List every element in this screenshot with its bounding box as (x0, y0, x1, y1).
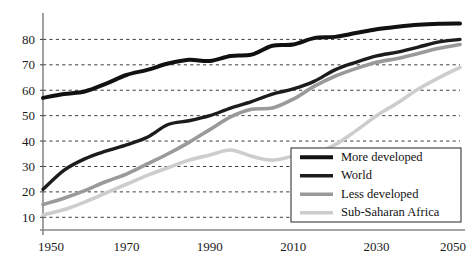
y-tick-label-50: 50 (22, 108, 35, 123)
x-tick-label-1950: 1950 (38, 239, 64, 254)
y-tick-label-10: 10 (22, 210, 35, 225)
legend-label-more-developed: More developed (341, 150, 423, 164)
y-tick-label-60: 60 (22, 83, 35, 98)
x-tick-label-2050: 2050 (440, 239, 466, 254)
x-tick-label-2010: 2010 (280, 239, 306, 254)
y-tick-label-80: 80 (22, 32, 35, 47)
x-tick-label-1970: 1970 (113, 239, 139, 254)
legend-label-less-developed: Less developed (341, 187, 419, 201)
x-tick-label-1990: 1990 (197, 239, 223, 254)
chart-canvas: 1020304050607080 19501970199020102030205… (0, 0, 469, 267)
chart-legend: More developedWorldLess developedSub-Sah… (291, 148, 461, 222)
y-tick-label-20: 20 (22, 184, 35, 199)
y-tick-label-70: 70 (22, 57, 35, 72)
urbanization-line-chart: 1020304050607080 19501970199020102030205… (0, 0, 469, 267)
y-tick-label-30: 30 (22, 159, 35, 174)
legend-label-world: World (341, 168, 373, 182)
y-tick-label-40: 40 (22, 134, 35, 149)
chart-background (0, 0, 469, 267)
x-tick-label-2030: 2030 (364, 239, 390, 254)
legend-label-sub-saharan-africa: Sub-Saharan Africa (341, 205, 440, 219)
